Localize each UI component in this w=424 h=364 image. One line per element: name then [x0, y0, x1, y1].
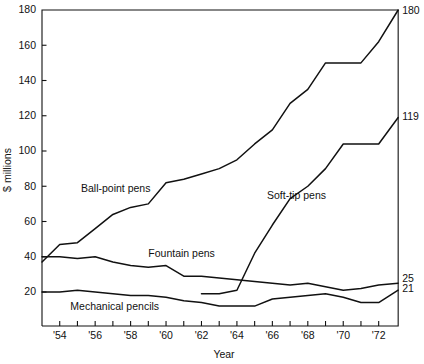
line-chart-canvas: 20406080100120140160180 '54'56'58'60'62'… [0, 0, 424, 364]
y-tick-label: 100 [18, 144, 36, 156]
data-series [42, 10, 398, 306]
series-line-soft-tip-pens [201, 118, 398, 294]
y-tick-label: 180 [18, 3, 36, 15]
series-line-fountain-pens [42, 257, 398, 290]
ball-point-pens-label: Ball-point pens [81, 182, 150, 194]
y-tick-label: 120 [18, 109, 36, 121]
y-tick-label: 40 [24, 250, 36, 262]
soft-tip-pens-label: Soft-tip pens [267, 189, 326, 201]
x-tick-label: '54 [53, 329, 67, 341]
end-label-soft-tip: 119 [402, 110, 419, 122]
x-tick-label: '58 [124, 329, 138, 341]
x-tick-label: '70 [336, 329, 350, 341]
end-label-mechanical: 21 [402, 282, 414, 294]
x-tick-label: '60 [159, 329, 173, 341]
x-tick-label: '56 [88, 329, 102, 341]
x-tick-label: '68 [301, 329, 315, 341]
chart-figure: 20406080100120140160180 '54'56'58'60'62'… [0, 0, 424, 364]
x-axis-ticks: '54'56'58'60'62'64'66'68'70'72 [53, 321, 386, 341]
end-value-labels: 1801192521 [402, 4, 420, 294]
x-tick-label: '64 [230, 329, 244, 341]
y-tick-label: 20 [24, 285, 36, 297]
y-tick-label: 140 [18, 74, 36, 86]
end-label-ball-point: 180 [402, 4, 420, 16]
mechanical-pencils-label: Mechanical pencils [70, 300, 159, 312]
y-axis-title: $ millions [1, 148, 13, 192]
x-tick-label: '72 [372, 329, 386, 341]
x-tick-label: '62 [195, 329, 209, 341]
series-line-ball-point-pens [42, 10, 398, 262]
x-tick-label: '66 [266, 329, 280, 341]
y-tick-label: 80 [24, 180, 36, 192]
y-tick-label: 160 [18, 39, 36, 51]
fountain-pens-label: Fountain pens [148, 247, 215, 259]
y-tick-label: 60 [24, 215, 36, 227]
x-axis-title: Year [213, 348, 235, 360]
